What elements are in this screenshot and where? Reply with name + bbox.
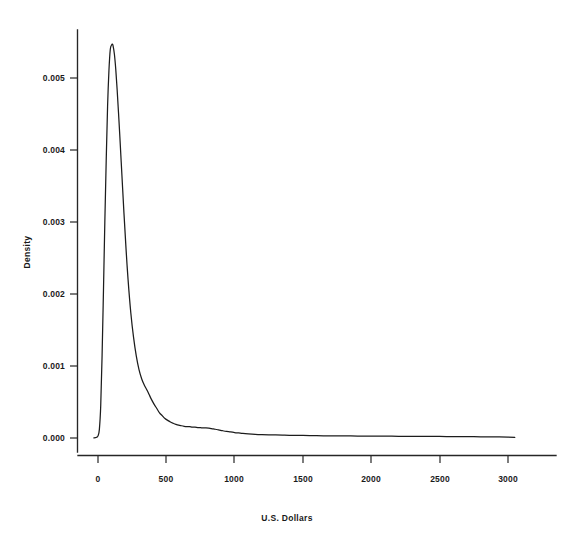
x-axis-ticks <box>98 456 508 463</box>
y-tick-label-3: 0.003 <box>43 217 65 227</box>
y-tick-label-1: 0.001 <box>43 361 65 371</box>
density-plot-figure: 0.005 0.004 0.003 0.002 0.001 0.000 0 50… <box>0 0 569 547</box>
y-tick-label-0: 0.000 <box>43 433 65 443</box>
y-axis-title: Density <box>22 236 32 269</box>
y-tick-label-4: 0.004 <box>43 145 65 155</box>
y-axis-ticks <box>70 78 77 438</box>
x-axis-tick-labels: 0 500 1000 1500 2000 2500 3000 <box>96 474 518 484</box>
density-curve <box>94 44 515 438</box>
x-tick-label-2: 1000 <box>224 474 244 484</box>
x-tick-label-5: 2500 <box>430 474 450 484</box>
chart-canvas: 0.005 0.004 0.003 0.002 0.001 0.000 0 50… <box>0 0 569 547</box>
x-tick-label-3: 1500 <box>293 474 313 484</box>
x-tick-label-0: 0 <box>96 474 101 484</box>
x-tick-label-6: 3000 <box>498 474 518 484</box>
x-tick-label-1: 500 <box>159 474 174 484</box>
y-tick-label-5: 0.005 <box>43 73 65 83</box>
y-axis-tick-labels: 0.005 0.004 0.003 0.002 0.001 0.000 <box>43 73 65 443</box>
y-tick-label-2: 0.002 <box>43 289 65 299</box>
x-axis-title: U.S. Dollars <box>261 513 312 523</box>
x-tick-label-4: 2000 <box>361 474 381 484</box>
